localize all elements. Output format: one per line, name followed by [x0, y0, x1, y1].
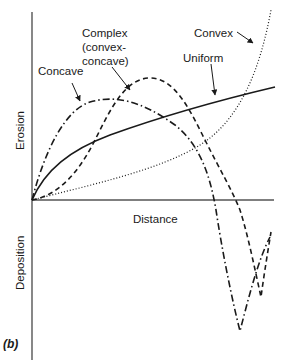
complex-label-line-3: concave)	[82, 55, 129, 67]
concave-label: Concave	[38, 65, 83, 77]
convex-label: Convex	[194, 27, 233, 39]
concave-arrow	[72, 83, 80, 101]
complex-arrow	[112, 67, 130, 90]
y-axis-label-deposition: Deposition	[14, 236, 26, 290]
complex-label-line-2: (convex-	[82, 41, 126, 53]
uniform-arrow	[211, 64, 215, 95]
erosion-deposition-diagram: Concave Complex (convex- concave) Unifor…	[0, 0, 286, 364]
complex-label-line-1: Complex	[82, 27, 128, 39]
convex-curve	[32, 10, 271, 200]
panel-label: (b)	[3, 337, 18, 351]
y-axis-label-erosion: Erosion	[14, 111, 26, 150]
uniform-label: Uniform	[183, 52, 223, 64]
x-axis-label: Distance	[133, 213, 178, 225]
complex-curve	[32, 78, 271, 297]
convex-arrow	[237, 32, 253, 43]
